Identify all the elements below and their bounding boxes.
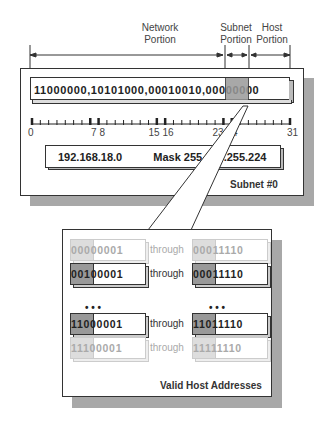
host-caption: Valid Host Addresses [160, 380, 262, 391]
through-label: through [150, 244, 184, 255]
host-bits: 11011110 [193, 318, 243, 330]
host-bits: 11111110 [193, 342, 242, 354]
host-address-block-end: 11111110 [192, 337, 272, 364]
host-address-block-end: 11011110 [192, 313, 272, 340]
through-label: through [150, 268, 184, 279]
host-bits: 11100001 [71, 342, 122, 354]
host-address-block-start: 11000001 [70, 313, 150, 340]
host-address-block-start: 00100001 [70, 263, 150, 290]
host-address-block-end: 00011110 [192, 263, 272, 290]
through-label: through [150, 342, 184, 353]
host-bits: 00011110 [193, 268, 244, 280]
host-address-block-start: 00000001 [70, 239, 150, 266]
host-bits: 11000001 [71, 318, 123, 330]
host-bits: 00011110 [193, 244, 244, 256]
host-bits: 00100001 [71, 268, 123, 280]
ellipsis-right: • • • [209, 302, 225, 313]
ellipsis-left: • • • [85, 302, 101, 313]
through-label: through [150, 318, 184, 329]
host-address-block-end: 00011110 [192, 239, 272, 266]
host-bits: 00000001 [71, 244, 123, 256]
host-address-block-start: 11100001 [70, 337, 150, 364]
